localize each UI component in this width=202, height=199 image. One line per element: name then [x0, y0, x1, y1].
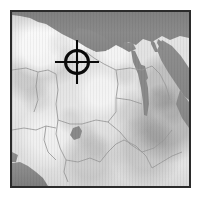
atlantic-coast-shape	[12, 152, 18, 162]
country-boundary-lines	[12, 52, 182, 182]
map-canvas[interactable]	[12, 12, 189, 186]
nile-river-shape	[131, 50, 149, 116]
lake-chad-shape	[70, 126, 82, 140]
water-layer	[12, 12, 189, 186]
map-frame	[10, 10, 191, 188]
gulf-of-suez-shape	[151, 39, 158, 52]
gulf-of-guinea-shape	[12, 162, 48, 186]
locator-map-figure	[0, 0, 202, 199]
